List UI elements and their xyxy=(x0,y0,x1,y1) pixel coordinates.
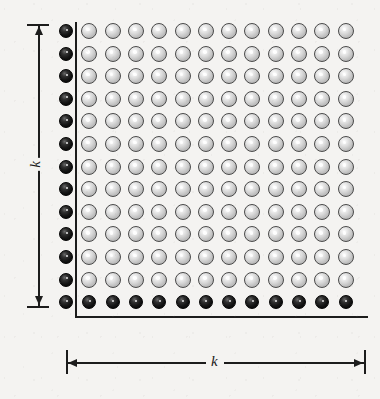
lattice-dot-open xyxy=(128,181,144,197)
lattice-dot-open xyxy=(314,46,330,62)
lattice-dot-open xyxy=(198,272,214,288)
lattice-dot-open xyxy=(198,68,214,84)
arrow-left-icon xyxy=(68,359,77,367)
lattice-dot-open xyxy=(198,46,214,62)
lattice-dot-open xyxy=(198,249,214,265)
lattice-dot-open xyxy=(338,249,354,265)
lattice-dot-open xyxy=(291,159,307,175)
lattice-dot-open xyxy=(291,91,307,107)
lattice-dot-open xyxy=(151,226,167,242)
lattice-dot-open xyxy=(268,136,284,152)
lattice-dot-open xyxy=(128,46,144,62)
lattice-dot-open xyxy=(151,136,167,152)
lattice-dot-open xyxy=(105,181,121,197)
lattice-dot-open xyxy=(81,46,97,62)
lattice-dot-open xyxy=(244,113,260,129)
lattice-dot-open xyxy=(81,204,97,220)
lattice-dot-filled xyxy=(59,205,73,219)
lattice-dot-open xyxy=(221,181,237,197)
lattice-dot-open xyxy=(175,23,191,39)
lattice-dot-open xyxy=(175,136,191,152)
lattice-dot-open xyxy=(128,136,144,152)
lattice-dot-open xyxy=(81,68,97,84)
vertical-dimension-tick-bottom xyxy=(27,306,49,308)
lattice-dot-open xyxy=(198,226,214,242)
lattice-dot-open xyxy=(198,181,214,197)
lattice-dot-open xyxy=(198,23,214,39)
lattice-dot-open xyxy=(175,46,191,62)
lattice-dot-open xyxy=(244,272,260,288)
lattice-dot-filled xyxy=(59,114,73,128)
lattice-dot-filled xyxy=(59,182,73,196)
lattice-dot-open xyxy=(314,136,330,152)
lattice-dot-open xyxy=(291,23,307,39)
lattice-dot-open xyxy=(291,204,307,220)
lattice-dot-open xyxy=(198,159,214,175)
lattice-dot-open xyxy=(221,249,237,265)
horizontal-dimension-tick-right xyxy=(364,350,366,374)
lattice-dot-open xyxy=(105,249,121,265)
lattice-dot-open xyxy=(105,23,121,39)
lattice-dot-filled xyxy=(59,250,73,264)
lattice-dot-open xyxy=(81,159,97,175)
lattice-dot-open xyxy=(105,113,121,129)
lattice-dot-open xyxy=(291,113,307,129)
lattice-dot-open xyxy=(221,23,237,39)
lattice-dot-open xyxy=(268,91,284,107)
lattice-dot-open xyxy=(175,181,191,197)
lattice-dot-open xyxy=(105,159,121,175)
lattice-dot-filled xyxy=(222,295,236,309)
lattice-dot-filled xyxy=(59,295,73,309)
lattice-dot-open xyxy=(128,91,144,107)
lattice-dot-open xyxy=(268,68,284,84)
lattice-dot-open xyxy=(221,68,237,84)
lattice-dot-open xyxy=(291,136,307,152)
lattice-dot-filled xyxy=(339,295,353,309)
lattice-dot-filled xyxy=(59,92,73,106)
lattice-dot-open xyxy=(151,159,167,175)
lattice-dot-open xyxy=(151,249,167,265)
lattice-dot-open xyxy=(314,249,330,265)
lattice-dot-open xyxy=(221,113,237,129)
lattice-dot-open xyxy=(338,113,354,129)
lattice-dot-filled xyxy=(199,295,213,309)
lattice-dot-open xyxy=(338,272,354,288)
lattice-dot-open xyxy=(221,226,237,242)
lattice-dot-open xyxy=(175,68,191,84)
lattice-dot-open xyxy=(291,226,307,242)
lattice-dot-open xyxy=(105,91,121,107)
lattice-dot-filled xyxy=(245,295,259,309)
lattice-dot-open xyxy=(81,91,97,107)
lattice-dot-open xyxy=(268,272,284,288)
lattice-dot-open xyxy=(175,226,191,242)
lattice-dot-open xyxy=(105,226,121,242)
lattice-dot-open xyxy=(175,113,191,129)
arrow-up-icon xyxy=(35,26,43,35)
lattice-dot-open xyxy=(198,91,214,107)
lattice-dot-open xyxy=(105,204,121,220)
lattice-dot-filled xyxy=(129,295,143,309)
lattice-dot-open xyxy=(128,272,144,288)
lattice-dot-filled xyxy=(176,295,190,309)
lattice-dot-open xyxy=(175,204,191,220)
lattice-dot-open xyxy=(338,181,354,197)
lattice-dot-open xyxy=(151,91,167,107)
lattice-dot-filled xyxy=(152,295,166,309)
lattice-dot-open xyxy=(221,159,237,175)
lattice-dot-open xyxy=(105,46,121,62)
lattice-dot-filled xyxy=(269,295,283,309)
lattice-dot-open xyxy=(291,249,307,265)
lattice-dot-filled xyxy=(59,47,73,61)
lattice-dot-open xyxy=(81,23,97,39)
lattice-dot-open xyxy=(314,226,330,242)
lattice-dot-open xyxy=(151,68,167,84)
lattice-dot-open xyxy=(338,159,354,175)
arrow-down-icon xyxy=(35,296,43,305)
lattice-dot-open xyxy=(338,136,354,152)
vertical-dimension-label: k xyxy=(27,158,44,171)
lattice-dot-filled xyxy=(106,295,120,309)
lattice-dot-open xyxy=(314,181,330,197)
lattice-dot-open xyxy=(314,113,330,129)
horizontal-dimension-line-left xyxy=(66,362,206,364)
lattice-dot-open xyxy=(198,204,214,220)
